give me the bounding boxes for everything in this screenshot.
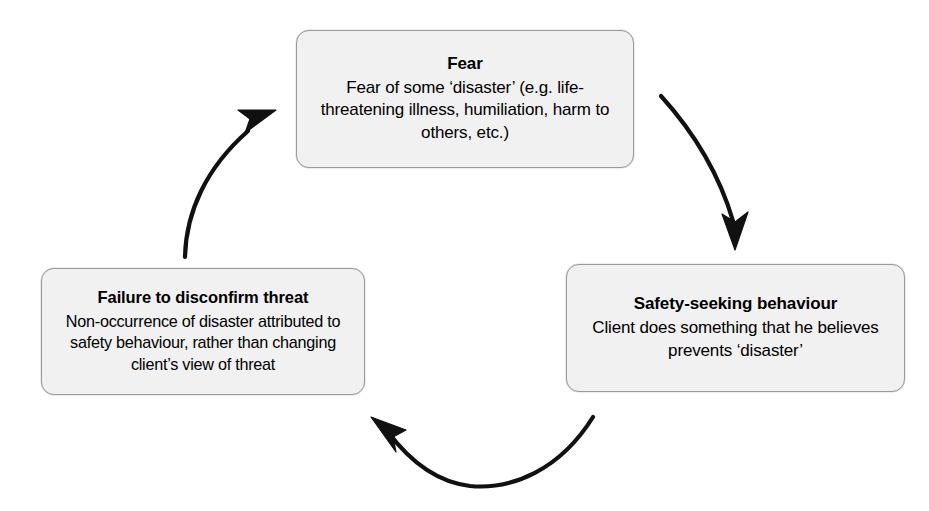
arrow-failure-to-fear [185,110,276,257]
node-safety-seeking-behaviour: Safety-seeking behaviour Client does som… [566,264,905,392]
node-failure-to-disconfirm-threat: Failure to disconfirm threat Non-occurre… [41,268,365,395]
node-failure-body: Non-occurrence of disaster attributed to… [42,311,364,376]
node-fear-body: Fear of some ‘disaster’ (e.g. life-threa… [297,77,633,145]
arrow-safety-to-failure [371,417,593,486]
arrow-fear-to-safety [661,96,748,250]
node-fear: Fear Fear of some ‘disaster’ (e.g. life-… [296,30,634,168]
node-failure-title: Failure to disconfirm threat [98,287,309,308]
node-safety-body: Client does something that he believes p… [567,317,904,363]
node-fear-title: Fear [447,53,483,75]
node-safety-title: Safety-seeking behaviour [634,293,838,315]
diagram-canvas: Fear Fear of some ‘disaster’ (e.g. life-… [0,0,929,511]
